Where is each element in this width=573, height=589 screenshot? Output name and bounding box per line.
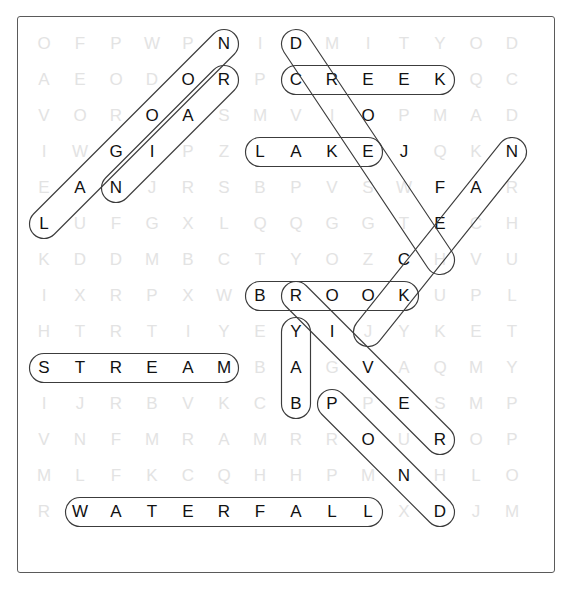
- grid-letter[interactable]: M: [317, 29, 347, 59]
- grid-letter[interactable]: B: [173, 245, 203, 275]
- grid-letter[interactable]: P: [281, 173, 311, 203]
- grid-letter[interactable]: T: [389, 29, 419, 59]
- grid-letter[interactable]: R: [101, 389, 131, 419]
- grid-letter[interactable]: P: [245, 65, 275, 95]
- grid-letter[interactable]: B: [245, 353, 275, 383]
- grid-letter[interactable]: I: [29, 137, 59, 167]
- grid-letter-found[interactable]: M: [209, 353, 239, 383]
- grid-letter[interactable]: D: [497, 29, 527, 59]
- grid-letter[interactable]: A: [209, 425, 239, 455]
- grid-letter[interactable]: G: [353, 209, 383, 239]
- grid-letter-found[interactable]: D: [425, 497, 455, 527]
- grid-letter-found[interactable]: L: [317, 497, 347, 527]
- grid-letter[interactable]: D: [497, 101, 527, 131]
- grid-letter[interactable]: L: [461, 461, 491, 491]
- grid-letter[interactable]: V: [29, 425, 59, 455]
- grid-letter[interactable]: M: [245, 101, 275, 131]
- grid-letter-found[interactable]: D: [281, 29, 311, 59]
- grid-letter-found[interactable]: A: [281, 353, 311, 383]
- grid-letter-found[interactable]: C: [281, 65, 311, 95]
- grid-letter-found[interactable]: T: [65, 353, 95, 383]
- grid-letter-found[interactable]: A: [101, 497, 131, 527]
- grid-letter-found[interactable]: G: [101, 137, 131, 167]
- grid-letter[interactable]: T: [245, 245, 275, 275]
- grid-letter[interactable]: O: [101, 65, 131, 95]
- grid-letter[interactable]: D: [101, 245, 131, 275]
- grid-letter[interactable]: W: [209, 281, 239, 311]
- grid-letter[interactable]: I: [29, 281, 59, 311]
- grid-letter[interactable]: B: [137, 389, 167, 419]
- grid-letter-found[interactable]: F: [425, 173, 455, 203]
- grid-letter-found[interactable]: A: [281, 137, 311, 167]
- grid-letter[interactable]: O: [461, 425, 491, 455]
- grid-letter[interactable]: Y: [389, 317, 419, 347]
- grid-letter[interactable]: A: [461, 101, 491, 131]
- grid-letter-found[interactable]: A: [65, 173, 95, 203]
- grid-letter-found[interactable]: R: [425, 425, 455, 455]
- grid-letter[interactable]: O: [65, 101, 95, 131]
- grid-letter-found[interactable]: I: [137, 137, 167, 167]
- grid-letter[interactable]: R: [281, 425, 311, 455]
- grid-letter[interactable]: J: [65, 389, 95, 419]
- grid-letter[interactable]: V: [461, 245, 491, 275]
- grid-letter-found[interactable]: R: [281, 281, 311, 311]
- grid-letter-found[interactable]: E: [353, 137, 383, 167]
- grid-letter-found[interactable]: K: [317, 137, 347, 167]
- grid-letter-found[interactable]: R: [209, 497, 239, 527]
- grid-letter-found[interactable]: E: [389, 65, 419, 95]
- grid-letter[interactable]: F: [101, 209, 131, 239]
- grid-letter[interactable]: U: [497, 245, 527, 275]
- grid-letter-found[interactable]: L: [245, 137, 275, 167]
- grid-letter-found[interactable]: O: [137, 101, 167, 131]
- grid-letter[interactable]: J: [137, 173, 167, 203]
- grid-letter-found[interactable]: W: [65, 497, 95, 527]
- grid-letter[interactable]: P: [353, 389, 383, 419]
- grid-letter[interactable]: X: [173, 281, 203, 311]
- grid-letter-found[interactable]: Y: [281, 317, 311, 347]
- grid-letter-found[interactable]: R: [101, 353, 131, 383]
- grid-letter[interactable]: V: [29, 101, 59, 131]
- grid-letter[interactable]: E: [65, 65, 95, 95]
- grid-letter[interactable]: Q: [425, 137, 455, 167]
- grid-letter[interactable]: R: [101, 101, 131, 131]
- grid-letter[interactable]: P: [461, 281, 491, 311]
- grid-letter[interactable]: P: [173, 137, 203, 167]
- grid-letter[interactable]: M: [497, 497, 527, 527]
- grid-letter[interactable]: E: [245, 317, 275, 347]
- grid-letter[interactable]: S: [425, 389, 455, 419]
- grid-letter[interactable]: P: [101, 29, 131, 59]
- grid-letter[interactable]: O: [29, 29, 59, 59]
- grid-letter[interactable]: W: [389, 173, 419, 203]
- grid-letter[interactable]: F: [101, 425, 131, 455]
- grid-letter[interactable]: S: [209, 173, 239, 203]
- grid-letter[interactable]: T: [137, 317, 167, 347]
- grid-letter[interactable]: I: [173, 317, 203, 347]
- grid-letter[interactable]: J: [461, 497, 491, 527]
- grid-letter[interactable]: K: [425, 317, 455, 347]
- grid-letter[interactable]: Q: [425, 353, 455, 383]
- grid-letter[interactable]: E: [29, 173, 59, 203]
- grid-letter-found[interactable]: F: [245, 497, 275, 527]
- grid-letter[interactable]: C: [245, 389, 275, 419]
- grid-letter-found[interactable]: V: [353, 353, 383, 383]
- grid-letter[interactable]: Y: [209, 317, 239, 347]
- grid-letter[interactable]: C: [173, 461, 203, 491]
- grid-letter[interactable]: G: [137, 209, 167, 239]
- grid-letter[interactable]: Z: [353, 245, 383, 275]
- grid-letter[interactable]: R: [101, 317, 131, 347]
- grid-letter-found[interactable]: E: [173, 497, 203, 527]
- grid-letter[interactable]: L: [209, 209, 239, 239]
- grid-letter-found[interactable]: B: [281, 389, 311, 419]
- grid-letter[interactable]: C: [497, 65, 527, 95]
- grid-letter[interactable]: L: [65, 461, 95, 491]
- grid-letter-found[interactable]: N: [389, 461, 419, 491]
- grid-letter[interactable]: M: [29, 461, 59, 491]
- grid-letter[interactable]: Q: [461, 65, 491, 95]
- grid-letter-found[interactable]: N: [497, 137, 527, 167]
- grid-letter[interactable]: G: [317, 353, 347, 383]
- grid-letter[interactable]: E: [461, 317, 491, 347]
- grid-letter-found[interactable]: A: [173, 101, 203, 131]
- grid-letter[interactable]: L: [497, 281, 527, 311]
- grid-letter[interactable]: P: [317, 461, 347, 491]
- grid-letter[interactable]: Y: [281, 245, 311, 275]
